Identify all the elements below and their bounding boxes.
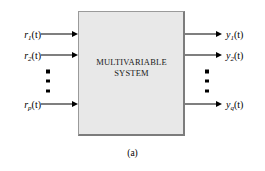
input-signal-label-3: rp(t): [24, 99, 41, 110]
input-signal-label-1: r1(t): [24, 29, 41, 40]
output-arrow-head-1: [216, 31, 222, 37]
output-signal-label-3: yq(t): [226, 99, 243, 110]
input-arrow-head-2: [72, 52, 78, 58]
output-signal-arg-1: (t): [234, 29, 243, 40]
input-arrow-line-2: [41, 55, 72, 56]
input-signal-arg-3: (t): [32, 99, 41, 110]
output-signal-sub-3: q: [230, 104, 234, 112]
input-arrow-line-1: [41, 34, 72, 35]
input-signal-label-2: r2(t): [24, 50, 41, 61]
ellipsis-dot: [46, 79, 50, 83]
output-signal-arg-2: (t): [234, 50, 243, 61]
input-signal-arg-2: (t): [32, 50, 41, 61]
output-arrow-head-3: [216, 101, 222, 107]
block-diagram-figure: MULTIVARIABLE SYSTEM r1(t) r2(t) rp(t) y…: [0, 0, 265, 171]
output-arrow-line-1: [185, 34, 216, 35]
ellipsis-dot: [205, 79, 209, 83]
output-signal-sub-1: 1: [230, 34, 234, 42]
output-signal-label-1: y1(t): [226, 29, 243, 40]
input-signal-sub-1: 1: [28, 34, 32, 42]
block-label-line-1: MULTIVARIABLE: [78, 57, 185, 68]
output-vertical-ellipsis-icon: [205, 70, 209, 93]
figure-caption: (a): [0, 148, 265, 158]
input-signal-arg-1: (t): [32, 29, 41, 40]
output-arrow-line-2: [185, 55, 216, 56]
ellipsis-dot: [205, 70, 209, 74]
output-signal-label-2: y2(t): [226, 50, 243, 61]
output-arrow-line-3: [185, 104, 216, 105]
ellipsis-dot: [46, 70, 50, 74]
input-signal-sub-3: p: [28, 104, 32, 112]
ellipsis-dot: [205, 89, 209, 93]
input-arrow-line-3: [41, 104, 72, 105]
multivariable-system-block-label: MULTIVARIABLE SYSTEM: [78, 57, 185, 79]
output-signal-sub-2: 2: [230, 55, 234, 63]
block-label-line-2: SYSTEM: [78, 68, 185, 79]
input-signal-sub-2: 2: [28, 55, 32, 63]
output-signal-arg-3: (t): [234, 99, 243, 110]
input-vertical-ellipsis-icon: [46, 70, 50, 93]
input-arrow-head-1: [72, 31, 78, 37]
input-arrow-head-3: [72, 101, 78, 107]
output-arrow-head-2: [216, 52, 222, 58]
ellipsis-dot: [46, 89, 50, 93]
